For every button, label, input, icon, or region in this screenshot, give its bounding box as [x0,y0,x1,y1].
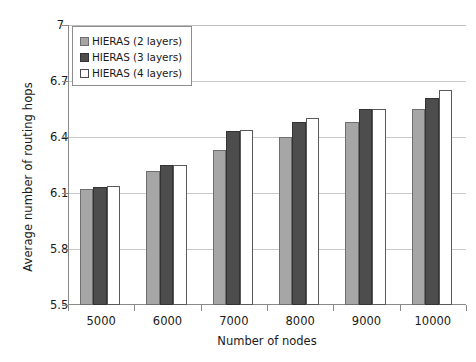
bar [160,165,174,305]
legend-swatch-icon [80,53,89,62]
x-tick-label: 9000 [352,314,381,328]
bar [372,109,386,305]
bar [107,186,121,305]
legend-label: HIERAS (3 layers) [92,51,182,63]
x-tick-label: 7000 [219,314,248,328]
bar [173,165,187,305]
x-tick-mark [201,305,202,311]
x-tick-mark [333,305,334,311]
legend-swatch-icon [80,69,89,78]
bar-group [400,25,466,305]
bar-group [333,25,399,305]
bar [226,131,240,305]
x-tick-label: 8000 [286,314,315,328]
legend-label: HIERAS (2 layers) [92,35,182,47]
bar [80,189,94,305]
bar [146,171,160,305]
x-tick-label: 10000 [415,314,452,328]
x-tick-mark [68,305,69,311]
x-tick-mark [267,305,268,311]
legend-swatch-icon [80,37,89,46]
bar [279,137,293,305]
legend-item: HIERAS (3 layers) [80,51,182,63]
bar [213,150,227,305]
bar [425,98,439,305]
legend-item: HIERAS (4 layers) [80,67,182,79]
x-tick-mark [400,305,401,311]
bar [359,109,373,305]
bar [240,130,254,305]
bar [439,90,453,305]
chart-legend: HIERAS (2 layers)HIERAS (3 layers)HIERAS… [72,26,192,86]
x-tick-mark [134,305,135,311]
legend-item: HIERAS (2 layers) [80,35,182,47]
x-axis-title: Number of nodes [68,334,466,348]
x-tick-mark [466,305,467,311]
y-axis-title: Average number of routing hops [21,52,35,302]
bar [292,122,306,305]
legend-label: HIERAS (4 layers) [92,67,182,79]
bar-group [267,25,333,305]
bar [306,118,320,305]
bar [93,187,107,305]
x-tick-label: 5000 [87,314,116,328]
x-tick-label: 6000 [153,314,182,328]
bar [412,109,426,305]
bar-chart: Average number of routing hops 5.55.86.1… [0,0,476,362]
bar [345,122,359,305]
bar-group [201,25,267,305]
